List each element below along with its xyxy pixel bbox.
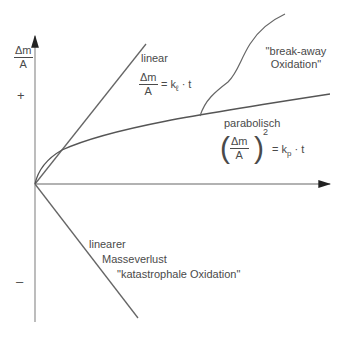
linear-curve <box>35 44 146 184</box>
loss-label-line1: linearer <box>89 238 126 251</box>
parabolic-eq-num: Δm <box>230 135 249 149</box>
y-axis-label: Δm A <box>14 44 33 71</box>
y-label-numerator: Δm <box>14 44 33 58</box>
minus-sign: – <box>16 275 23 288</box>
y-label-denominator: A <box>20 58 27 71</box>
linear-equation-rhs: = kℓ · t <box>161 78 191 93</box>
linear-eq-den: A <box>145 85 152 98</box>
parabolic-equation-fraction: Δm A <box>230 135 249 162</box>
parabolic-exponent: 2 <box>263 126 268 139</box>
plus-sign: + <box>17 89 25 102</box>
linear-eq-num: Δm <box>139 71 158 85</box>
paren-open: ( <box>220 133 230 163</box>
linear-label: linear <box>141 52 168 65</box>
loss-label-line3: "katastrophale Oxidation" <box>117 268 240 281</box>
parabolic-equation-rhs: = kp · t <box>272 143 304 158</box>
loss-label-line2: Masseverlust <box>102 253 167 266</box>
parabolic-eq-den: A <box>236 149 243 162</box>
breakaway-label: "break-away Oxidation" <box>261 45 331 71</box>
parabolic-curve <box>35 94 330 184</box>
linear-equation-fraction: Δm A <box>139 71 158 98</box>
mass-loss-curve <box>35 184 138 318</box>
parabolic-label: parabolisch <box>224 117 280 130</box>
